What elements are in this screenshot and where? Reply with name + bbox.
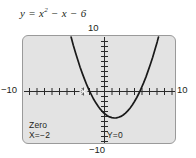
equation-label-main: y = x xyxy=(20,7,44,19)
equation-label-tail: − x − 6 xyxy=(48,7,87,19)
readout-y-value: Y=0 xyxy=(107,130,123,140)
axis-label-top: 10 xyxy=(88,22,99,33)
equation-label: y = x2 − x − 6 xyxy=(20,6,87,19)
axis-label-left: −10 xyxy=(1,84,17,95)
calculator-screen: Zero X=−2 Y=0 xyxy=(22,35,176,144)
readout-title: Zero xyxy=(29,120,47,130)
axis-label-bottom: −10 xyxy=(89,144,105,155)
figure-root: y = x2 − x − 6 10 −10 10 −10 xyxy=(0,0,196,158)
zero-cursor-marker xyxy=(80,88,88,96)
readout-x-value: X=−2 xyxy=(29,130,50,140)
axis-label-right: 10 xyxy=(177,84,188,95)
parabola-curve xyxy=(71,37,158,118)
